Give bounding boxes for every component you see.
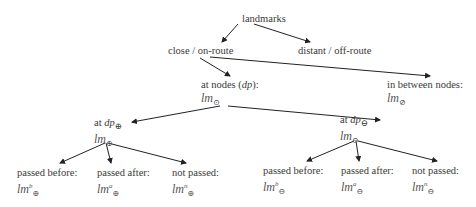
leaf-symbol: lma⊖ [341,178,394,198]
leaf-plus-after: passed after: lma⊕ [97,167,150,200]
leaf-label: passed before: [17,167,77,179]
dp-plus-symbol: lm⊕ [94,133,122,150]
node-dp-plus: at dp⊕ lm⊕ [94,117,122,150]
leaf-symbol: lma⊕ [97,180,150,200]
close-label: close / on-route [168,45,233,57]
dp-plus-label: at dp⊕ [94,117,122,132]
root-label: landmarks [242,13,286,25]
node-distant-off-route: distant / off-route [298,45,371,57]
landmark-taxonomy-diagram: landmarks close / on-route distant / off… [0,0,476,207]
dp-minus-label: at dp⊖ [340,114,368,129]
in-between-symbol: lm⊘ [387,92,463,109]
leaf-label: not passed: [412,165,459,177]
node-dp-minus: at dp⊖ lm⊖ [340,114,368,147]
in-between-label: in between nodes: [387,79,463,91]
leaf-label: passed after: [341,165,394,177]
leaf-label: not passed: [172,167,219,179]
leaf-minus-after: passed after: lma⊖ [341,165,394,198]
leaf-symbol: lmn⊖ [412,178,459,198]
node-at-nodes: at nodes (dp): lm⊙ [201,79,259,109]
leaf-minus-not: not passed: lmn⊖ [412,165,459,198]
node-close-on-route: close / on-route [168,45,233,57]
leaf-plus-not: not passed: lmn⊕ [172,167,219,200]
leaf-plus-before: passed before: lmb⊕ [17,167,77,200]
leaf-label: passed before: [263,165,323,177]
distant-label: distant / off-route [298,45,371,57]
leaf-label: passed after: [97,167,150,179]
at-nodes-label: at nodes (dp): [201,79,259,91]
node-root: landmarks [242,13,286,25]
leaf-symbol: lmn⊕ [172,180,219,200]
node-in-between: in between nodes: lm⊘ [387,79,463,109]
leaf-minus-before: passed before: lmb⊖ [263,165,323,198]
at-nodes-symbol: lm⊙ [201,92,259,109]
leaf-symbol: lmb⊖ [263,178,323,198]
leaf-symbol: lmb⊕ [17,180,77,200]
dp-minus-symbol: lm⊖ [340,130,368,147]
